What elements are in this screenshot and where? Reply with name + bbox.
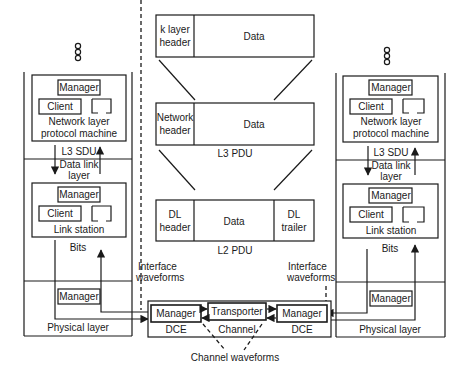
svg-text:Data link: Data link — [60, 159, 100, 170]
svg-text:Data link: Data link — [372, 160, 412, 171]
svg-text:Manager: Manager — [156, 308, 196, 319]
svg-text:DL: DL — [169, 209, 182, 220]
svg-text:Link station: Link station — [366, 225, 417, 236]
svg-text:Physical layer: Physical layer — [359, 324, 421, 335]
channel-block: Manager Transporter Manager DCE Channel … — [148, 301, 331, 337]
ellipsis-icon — [75, 43, 80, 60]
svg-text:protocol machine: protocol machine — [41, 128, 118, 139]
left-station-stack: ooo Manager Client Network layer protoco… — [24, 43, 148, 336]
svg-text:trailer: trailer — [281, 222, 307, 233]
svg-text:Manager: Manager — [371, 190, 411, 201]
link-station: Manager Client Link station — [343, 184, 438, 238]
manager-label: Manager — [59, 82, 99, 93]
svg-text:DL: DL — [288, 209, 301, 220]
svg-text:Manager: Manager — [59, 189, 99, 200]
client-label: Client — [47, 101, 73, 112]
svg-text:Data: Data — [243, 31, 265, 42]
svg-text:Channel: Channel — [218, 324, 255, 335]
osi-layer-diagram: ooo Manager Client Network layer protoco… — [0, 0, 465, 377]
svg-text:protocol machine: protocol machine — [353, 128, 430, 139]
network-layer-protocol-machine: Manager Client Network layer protocol ma… — [343, 76, 438, 142]
svg-text:Manager: Manager — [282, 308, 322, 319]
svg-text:k layer: k layer — [160, 24, 190, 35]
svg-text:header: header — [159, 222, 191, 233]
svg-text:Data: Data — [223, 216, 245, 227]
right-station-stack: ooo Manager Client Network layer protoco… — [326, 47, 445, 337]
channel-waveforms-label: Channel waveforms — [191, 352, 279, 363]
svg-text:header: header — [159, 125, 191, 136]
svg-text:Client: Client — [47, 208, 73, 219]
svg-text:Client: Client — [358, 209, 384, 220]
svg-text:Network layer: Network layer — [360, 116, 422, 127]
svg-text:Transporter: Transporter — [211, 306, 263, 317]
network-layer-protocol-machine: Manager Client Network layer protocol ma… — [32, 75, 126, 141]
interface-waveforms-label: Interface — [288, 261, 327, 272]
svg-text:Manager: Manager — [371, 82, 411, 93]
ellipsis-icon — [384, 47, 389, 64]
l3-pdu-caption: L3 PDU — [217, 148, 252, 159]
svg-text:Client: Client — [358, 101, 384, 112]
svg-text:DCE: DCE — [165, 324, 186, 335]
l3-pdu: Network header Data L3 PDU — [156, 103, 314, 159]
l2-pdu-caption: L2 PDU — [217, 245, 252, 256]
svg-text:layer: layer — [380, 171, 402, 182]
svg-text:Link station: Link station — [54, 224, 105, 235]
svg-text:waveforms: waveforms — [135, 272, 184, 283]
svg-text:DCE: DCE — [291, 324, 312, 335]
interface-waveforms-label: Interface — [138, 261, 177, 272]
l2-pdu: DL header Data DL trailer L2 PDU — [156, 200, 314, 256]
svg-text:layer: layer — [68, 170, 90, 181]
svg-text:Data: Data — [243, 119, 265, 130]
svg-text:Network layer: Network layer — [48, 116, 110, 127]
link-station: Manager Client Link station — [32, 183, 126, 237]
svg-text:Network: Network — [157, 112, 195, 123]
svg-text:Manager: Manager — [59, 291, 99, 302]
svg-text:Bits: Bits — [382, 243, 399, 254]
svg-text:waveforms: waveforms — [286, 272, 335, 283]
physical-layer-label: Physical layer — [47, 322, 109, 333]
svg-text:Manager: Manager — [371, 293, 411, 304]
svg-text:header: header — [159, 37, 191, 48]
k-layer-pdu: k layer header Data — [156, 15, 314, 57]
svg-text:L3 SDU: L3 SDU — [373, 147, 408, 158]
l3-sdu-label: L3 SDU — [61, 146, 96, 157]
bits-label: Bits — [70, 242, 87, 253]
